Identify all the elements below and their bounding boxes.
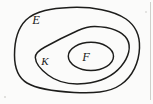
- set-label-f: F: [81, 50, 90, 64]
- paper-speck: [145, 11, 146, 12]
- set-label-e: E: [31, 13, 40, 27]
- set-diagram-canvas: E K F: [0, 0, 153, 104]
- set-diagram-figure: E K F: [0, 0, 153, 104]
- paper-speck: [4, 96, 6, 98]
- set-curve-inner-f: [68, 42, 113, 70]
- set-label-k: K: [40, 55, 49, 67]
